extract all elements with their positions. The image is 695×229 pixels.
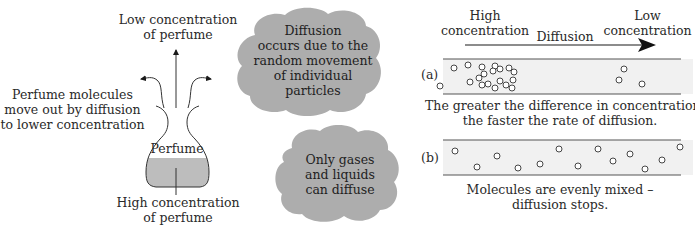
low-heading-line-1: Low [600,8,695,23]
molecule-icon [492,85,498,91]
caption-a-line-1: The greater the difference in concentrat… [425,98,695,113]
tube-b-label: (b) [421,150,439,165]
molecule-icon [621,66,627,72]
diffusion-arrows-icon [141,50,211,108]
high-label-line-2: of perfume [113,210,243,225]
low-label-line-2: of perfume [118,27,238,42]
molecule-icon [452,148,458,154]
cloud-1-line: of individual [248,68,378,83]
caption-b-line-1: Molecules are evenly mixed – [425,182,695,197]
molecule-icon [437,83,443,89]
high-label-line-1: High concentration [113,195,243,210]
cloud-1-text: Diffusion occurs due to the random movem… [248,23,378,98]
cloud-1-line: random movement [248,53,378,68]
cloud-2-line: Only gases [290,152,390,167]
molecule-icon [537,161,543,167]
molecule-icon [467,79,473,85]
molecule-icon [575,163,581,169]
cloud-2-text: Only gases and liquids can diffuse [290,152,390,197]
molecule-icon [659,157,665,163]
molecule-icon [610,158,616,164]
molecule-icon [479,64,485,70]
high-heading-line-2: concentration [440,23,530,38]
molecule-icon [490,68,496,74]
tube-b-caption: Molecules are evenly mixed – diffusion s… [425,182,695,212]
side-label-line-1: Perfume molecules [0,87,145,102]
tube-a-caption: The greater the difference in concentrat… [425,98,695,128]
molecule-icon [451,65,457,71]
molecule-icon [485,81,491,87]
cloud-1-line: occurs due to the [248,38,378,53]
high-heading-line-1: High [440,8,530,23]
molecule-icon [556,146,562,152]
low-concentration-heading: Low concentration [600,8,695,38]
molecule-icon [677,144,683,150]
molecule-icon [639,81,645,87]
side-label-line-2: move out by diffusion [0,102,145,117]
tube-a [437,59,693,94]
molecule-icon [506,65,512,71]
side-label-line-3: to lower concentration [0,117,145,132]
molecule-icon [642,166,648,172]
cloud-2-line: and liquids [290,167,390,182]
tube-a-label: (a) [421,67,438,82]
molecule-icon [494,153,500,159]
molecule-icon [511,69,517,75]
flask-label: Perfume [146,141,208,156]
diffusion-arrow-label: Diffusion [530,29,600,44]
low-heading-line-2: concentration [600,23,695,38]
molecule-icon [503,82,509,88]
caption-a-line-2: the faster the rate of diffusion. [425,113,695,128]
caption-b-line-2: diffusion stops. [425,197,695,212]
molecule-icon [616,77,622,83]
molecule-icon [627,151,633,157]
low-concentration-label: Low concentration of perfume [118,12,238,42]
molecule-icon [476,75,482,81]
molecule-icon [474,164,480,170]
molecule-icon [515,165,521,171]
molecule-icon [497,66,503,72]
molecule-icon [510,77,516,83]
perfume-molecules-label: Perfume molecules move out by diffusion … [0,87,145,132]
molecule-icon [465,62,471,68]
cloud-2-line: can diffuse [290,182,390,197]
cloud-1-line: Diffusion [248,23,378,38]
molecule-icon [481,71,487,77]
molecule-icon [479,82,485,88]
low-label-line-1: Low concentration [118,12,238,27]
tube-b [443,140,693,175]
molecule-icon [509,85,515,91]
high-concentration-label: High concentration of perfume [113,195,243,225]
cloud-1-line: particles [248,83,378,98]
molecule-icon [595,146,601,152]
high-concentration-heading: High concentration [440,8,530,38]
molecule-icon [497,78,503,84]
